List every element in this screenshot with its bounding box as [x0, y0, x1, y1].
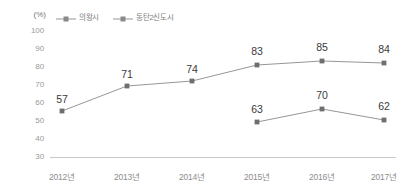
x-tick-2012: 2012년	[37, 172, 87, 183]
data-label-uiwang-2013: 71	[112, 68, 142, 80]
data-label-dongtan2-2015: 63	[242, 103, 272, 115]
series-line-uiwang	[62, 61, 384, 111]
data-label-uiwang-2012: 57	[47, 93, 77, 105]
x-tick-2013: 2013년	[102, 172, 152, 183]
x-tick-2017: 2017년	[359, 172, 402, 183]
data-label-uiwang-2014: 74	[177, 63, 207, 75]
data-label-dongtan2-2016: 70	[307, 89, 337, 101]
line-chart: (%) 의왕시 동탄2신도시 100 90 80 70 60 50 40	[0, 0, 402, 194]
data-label-uiwang-2017: 84	[369, 43, 399, 55]
data-label-uiwang-2016: 85	[307, 41, 337, 53]
x-tick-2014: 2014년	[167, 172, 217, 183]
series-markers-dongtan2	[255, 107, 387, 125]
data-label-uiwang-2015: 83	[242, 45, 272, 57]
data-label-dongtan2-2017: 62	[369, 100, 399, 112]
series-markers-uiwang	[60, 59, 387, 114]
x-tick-2015: 2015년	[232, 172, 282, 183]
x-tick-2016: 2016년	[297, 172, 347, 183]
